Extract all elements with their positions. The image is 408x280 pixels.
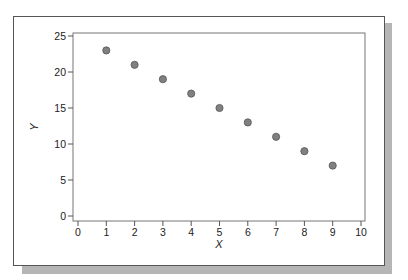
x-tick-label: 6	[245, 226, 251, 238]
data-point	[216, 104, 223, 111]
y-tick-label: 5	[60, 174, 66, 186]
y-axis-label: Y	[28, 123, 40, 131]
data-point	[188, 90, 195, 97]
y-tick-label: 20	[54, 66, 66, 78]
x-tick-label: 9	[330, 226, 336, 238]
y-tick-label: 15	[54, 102, 66, 114]
data-point	[301, 148, 308, 155]
data-point	[131, 61, 138, 68]
x-tick-label: 4	[188, 226, 194, 238]
x-tick-label: 10	[355, 226, 367, 238]
data-point	[273, 133, 280, 140]
x-tick-label: 1	[103, 226, 109, 238]
scatter-chart: 0510152025 012345678910 X Y	[0, 0, 408, 280]
data-point	[244, 119, 251, 126]
data-point	[103, 47, 110, 54]
data-point	[329, 162, 336, 169]
x-tick-label: 8	[301, 226, 307, 238]
x-axis-label: X	[214, 238, 223, 250]
x-axis: 012345678910	[75, 221, 367, 238]
x-tick-label: 7	[273, 226, 279, 238]
x-tick-label: 0	[75, 226, 81, 238]
y-tick-label: 25	[54, 30, 66, 42]
x-tick-label: 3	[160, 226, 166, 238]
y-tick-label: 10	[54, 138, 66, 150]
plot-area	[73, 33, 365, 221]
data-point	[159, 76, 166, 83]
y-axis: 0510152025	[54, 30, 73, 222]
y-tick-label: 0	[60, 210, 66, 222]
x-tick-label: 2	[132, 226, 138, 238]
x-tick-label: 5	[217, 226, 223, 238]
